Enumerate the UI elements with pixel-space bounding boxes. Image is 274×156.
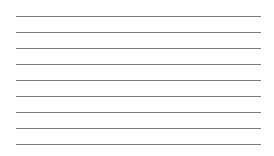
ruled-line <box>16 16 261 17</box>
ruled-line <box>16 48 261 49</box>
ruled-line <box>16 96 261 97</box>
ruled-line <box>16 144 261 145</box>
ruled-line <box>16 112 261 113</box>
ruled-line <box>16 80 261 81</box>
ruled-line <box>16 128 261 129</box>
ruled-sheet <box>0 0 274 156</box>
ruled-line <box>16 64 261 65</box>
ruled-line <box>16 32 261 33</box>
